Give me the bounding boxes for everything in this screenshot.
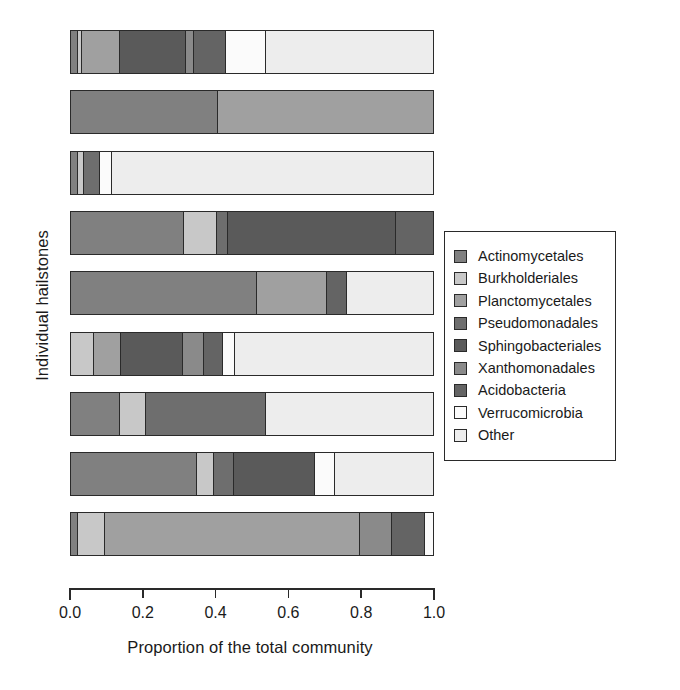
bar-segment	[335, 453, 434, 495]
x-axis-tick-label: 1.0	[404, 604, 464, 622]
legend-item-label: Burkholderiales	[478, 271, 578, 286]
bar-row	[70, 332, 434, 376]
x-axis-tick	[69, 588, 71, 600]
bar-segment	[217, 212, 228, 254]
legend-item: Sphingobacteriales	[454, 335, 607, 357]
bar-segment	[121, 333, 183, 375]
bar-segment	[347, 272, 434, 314]
legend-item: Xanthomonadales	[454, 357, 607, 379]
x-axis-tick-label: 0.0	[40, 604, 100, 622]
legend-item-label: Pseudomonadales	[478, 316, 598, 331]
bar-segment	[360, 513, 392, 555]
bar-row	[70, 271, 434, 315]
bar-row	[70, 90, 434, 134]
legend-item-label: Verrucomicrobia	[478, 406, 583, 421]
legend-item-label: Actinomycetales	[478, 249, 584, 264]
legend-item-label: Sphingobacteriales	[478, 339, 601, 354]
bar-segment	[71, 91, 218, 133]
bar-segment	[100, 152, 112, 194]
bar-row	[70, 512, 434, 556]
bar-row	[70, 452, 434, 496]
legend-swatch-icon	[454, 294, 467, 307]
bar-segment	[392, 513, 425, 555]
bar-segment	[120, 31, 186, 73]
bar-segment	[186, 31, 194, 73]
bar-segment	[120, 393, 146, 435]
bar-segment	[184, 212, 217, 254]
bar-row	[70, 211, 434, 255]
bar-segment	[183, 333, 204, 375]
bar-segment	[194, 31, 227, 73]
legend-item: Other	[454, 424, 607, 446]
legend-item: Verrucomicrobia	[454, 402, 607, 424]
bar-segment	[315, 453, 335, 495]
x-axis-tick	[215, 588, 217, 598]
bar-segment	[235, 333, 434, 375]
x-axis-label: Proportion of the total community	[0, 638, 500, 657]
legend-swatch-icon	[454, 406, 467, 419]
bar-segment	[71, 152, 78, 194]
legend-item-label: Planctomycetales	[478, 294, 592, 309]
bar-segment	[71, 513, 78, 555]
bar-row	[70, 30, 434, 74]
bar-segment	[218, 91, 434, 133]
bar-row	[70, 151, 434, 195]
bar-segment	[71, 393, 120, 435]
bar-segment	[223, 333, 235, 375]
legend-item: Pseudomonadales	[454, 312, 607, 334]
stacked-bar-chart-figure: Individual hailstones 0.00.20.40.60.81.0…	[0, 0, 680, 690]
bar-segment	[71, 453, 197, 495]
bar-segment	[226, 31, 265, 73]
legend-item: Acidobacteria	[454, 379, 607, 401]
x-axis-tick	[142, 588, 144, 598]
x-axis-tick	[433, 588, 435, 600]
plot-area	[70, 30, 434, 575]
legend-swatch-icon	[454, 272, 467, 285]
bar-segment	[71, 272, 257, 314]
x-axis-tick	[360, 588, 362, 598]
bar-segment	[197, 453, 214, 495]
legend-swatch-icon	[454, 339, 467, 352]
bar-segment	[396, 212, 434, 254]
legend-item: Actinomycetales	[454, 245, 607, 267]
bar-segment	[204, 333, 223, 375]
bar-row	[70, 392, 434, 436]
legend-item-label: Acidobacteria	[478, 383, 566, 398]
bar-segment	[257, 272, 327, 314]
x-axis-line	[70, 588, 434, 590]
bar-segment	[234, 453, 315, 495]
bar-segment	[94, 333, 121, 375]
x-axis-tick-label: 0.8	[331, 604, 391, 622]
bar-segment	[228, 212, 396, 254]
bar-segment	[327, 272, 347, 314]
x-axis-tick-label: 0.6	[258, 604, 318, 622]
legend: ActinomycetalesBurkholderialesPlanctomyc…	[444, 231, 616, 461]
bar-segment	[266, 31, 434, 73]
legend-item-label: Other	[478, 428, 514, 443]
bar-segment	[84, 152, 100, 194]
bar-segment	[71, 212, 184, 254]
legend-item-label: Xanthomonadales	[478, 361, 595, 376]
legend-item: Planctomycetales	[454, 290, 607, 312]
legend-swatch-icon	[454, 250, 467, 263]
legend-swatch-icon	[454, 429, 467, 442]
bar-segment	[78, 513, 105, 555]
bar-segment	[105, 513, 360, 555]
bar-segment	[425, 513, 434, 555]
x-axis-tick	[288, 588, 290, 598]
x-axis-tick-label: 0.2	[113, 604, 173, 622]
x-axis-tick-label: 0.4	[186, 604, 246, 622]
legend-swatch-icon	[454, 317, 467, 330]
legend-item: Burkholderiales	[454, 267, 607, 289]
bar-segment	[82, 31, 120, 73]
y-axis-label: Individual hailstones	[33, 176, 52, 436]
bar-segment	[112, 152, 434, 194]
bar-segment	[146, 393, 266, 435]
legend-swatch-icon	[454, 362, 467, 375]
bar-segment	[266, 393, 434, 435]
bar-segment	[214, 453, 234, 495]
bar-segment	[71, 333, 94, 375]
legend-swatch-icon	[454, 384, 467, 397]
